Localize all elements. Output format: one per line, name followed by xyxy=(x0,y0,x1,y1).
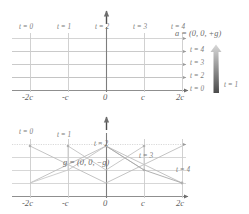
top-panel-time-label-0: t = 0 xyxy=(19,24,33,31)
top-panel-worldlines xyxy=(31,27,183,92)
acceleration-vector-label: a = (0, 0, +g) xyxy=(175,30,221,38)
top-panel-right-label-1: t = 3 xyxy=(190,60,204,67)
bottom-panel-xtick-2: 0 xyxy=(103,199,107,208)
bottom-panel-time-label-1: t = 1 xyxy=(57,132,71,139)
top-panel-time-label-2: t = 2 xyxy=(95,24,109,31)
bottom-panel-time-label-4: t = 4 xyxy=(176,167,190,174)
top-panel-time-label-3: t = 3 xyxy=(133,24,147,31)
top-panel-xtick-3: c xyxy=(141,93,145,102)
gravity-vector-label: g = (0, 0, −g) xyxy=(63,159,109,167)
bottom-panel-grid xyxy=(12,145,188,197)
top-panel-xtick-0: -2c xyxy=(22,93,33,102)
top-panel-xtick-4: 2c xyxy=(176,93,184,102)
bottom-panel-time-label-2: t = 2 xyxy=(94,141,108,148)
bottom-panel-time-label-0: t = 0 xyxy=(19,129,33,136)
top-panel-right-label-2: t = 2 xyxy=(190,73,204,80)
top-panel-xtick-1: -c xyxy=(62,93,69,102)
bottom-panel-xtick-1: -c xyxy=(62,199,69,208)
bottom-panel-time-label-3: t = 3 xyxy=(139,153,153,160)
bottom-panel-xtick-0: -2c xyxy=(22,199,33,208)
spacetime-figure: t = 0 t = 1 t = 2 t = 3 t = 4 a = (0, 0,… xyxy=(0,0,249,214)
acceleration-arrow xyxy=(211,45,222,94)
bottom-panel-xtick-4: 2c xyxy=(176,199,184,208)
top-panel-time-label-1: t = 1 xyxy=(57,24,71,31)
top-panel-right-label-3: t = 0 xyxy=(190,86,204,93)
top-panel-right-label-0: t = 4 xyxy=(190,47,204,54)
bottom-panel-xtick-3: c xyxy=(141,199,145,208)
top-panel-grid xyxy=(12,39,188,91)
top-panel-xtick-2: 0 xyxy=(103,93,107,102)
top-panel-right-label-4: t = 1 xyxy=(224,82,238,89)
